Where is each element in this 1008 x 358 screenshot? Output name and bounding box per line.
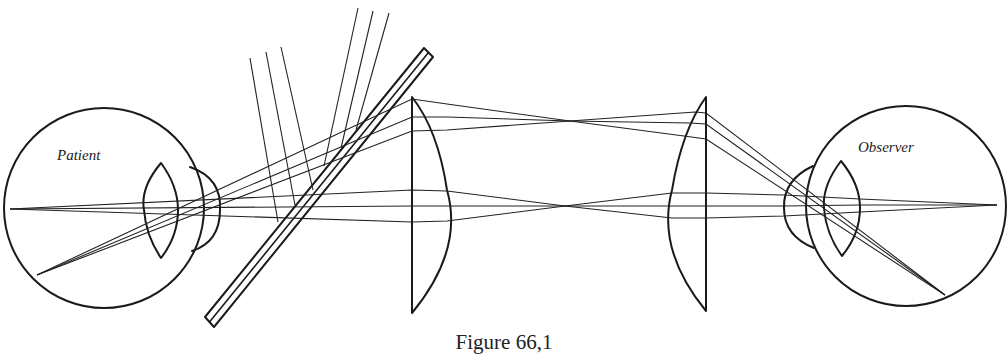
observer-label: Observer: [858, 139, 914, 155]
left-condensing-lens: [412, 97, 451, 313]
plate-inner-line: [210, 53, 429, 323]
patient-lens: [143, 163, 178, 258]
patient-label: Patient: [56, 147, 101, 163]
figure-caption: Figure 66,1: [456, 330, 553, 354]
figure-caption-container: Figure 66,1: [0, 330, 1008, 355]
optical-diagram: Patient Observer: [0, 0, 1008, 358]
observer-lens: [824, 161, 860, 256]
beam-splitter-plate: [205, 48, 433, 327]
right-condensing-lens: [668, 97, 706, 311]
